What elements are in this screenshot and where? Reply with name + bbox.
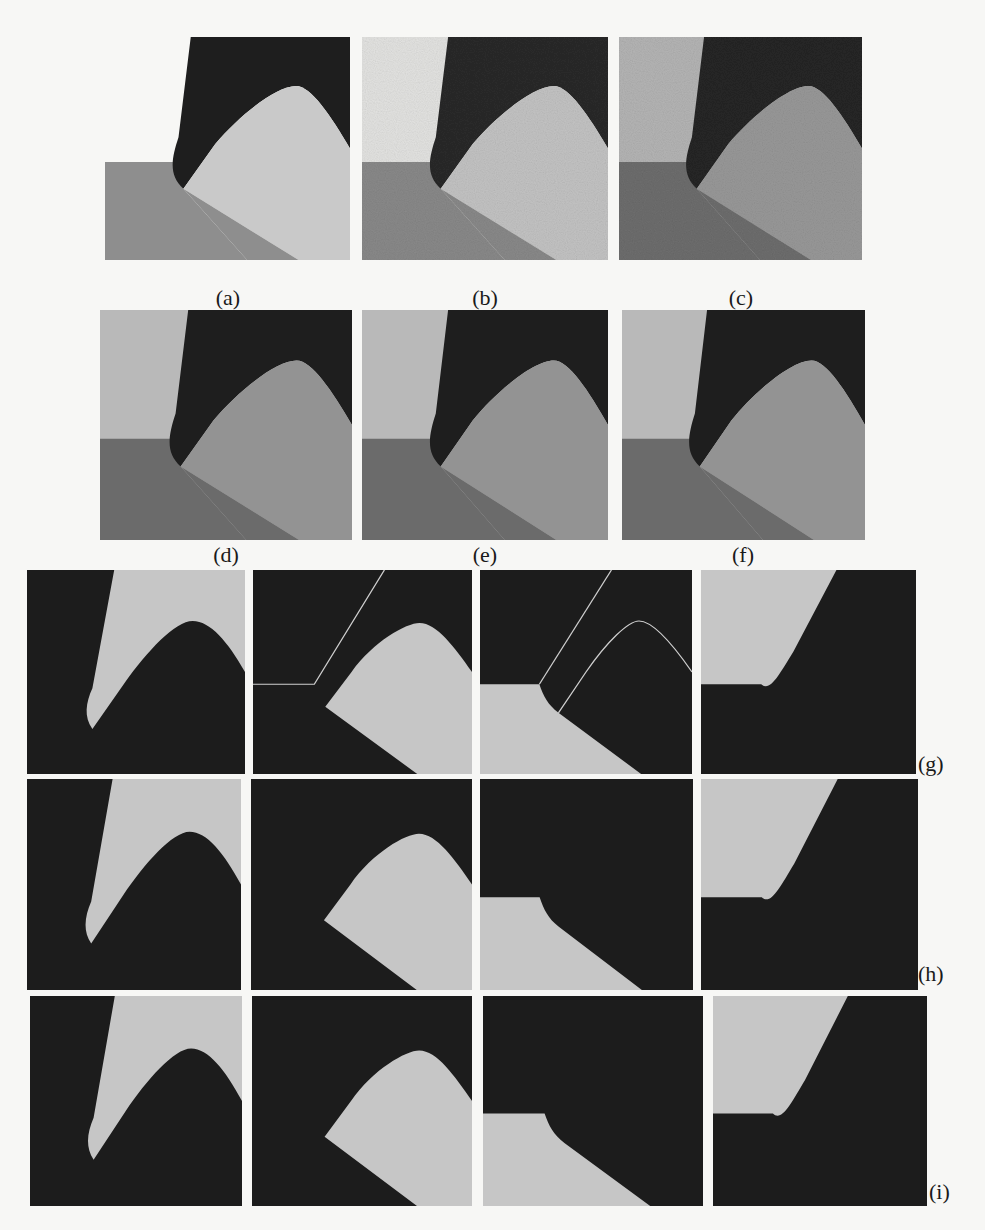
mask-i-2 bbox=[252, 996, 472, 1206]
bleed-through-text bbox=[870, 42, 875, 222]
mask-i-3 bbox=[483, 996, 703, 1206]
caption-b: (b) bbox=[455, 286, 515, 310]
mask-g-1 bbox=[27, 570, 245, 774]
mask-h-2 bbox=[251, 779, 472, 990]
mask-i-1 bbox=[30, 996, 242, 1206]
panel-c bbox=[619, 37, 862, 260]
row-label-g: (g) bbox=[918, 752, 944, 776]
mask-h-3 bbox=[480, 779, 693, 990]
panel-e bbox=[362, 310, 608, 540]
row-label-h: (h) bbox=[918, 962, 944, 986]
mask-g-3 bbox=[480, 570, 692, 774]
panel-a bbox=[105, 37, 350, 260]
mask-g-2 bbox=[253, 570, 472, 774]
panel-d bbox=[100, 310, 352, 540]
caption-f: (f) bbox=[713, 543, 773, 567]
caption-e: (e) bbox=[455, 543, 515, 567]
row-label-i: (i) bbox=[929, 1180, 950, 1204]
panel-b bbox=[362, 37, 608, 260]
mask-g-4 bbox=[701, 570, 916, 774]
mask-h-4 bbox=[701, 779, 918, 990]
caption-d: (d) bbox=[196, 543, 256, 567]
mask-i-4 bbox=[713, 996, 927, 1206]
caption-a: (a) bbox=[198, 286, 258, 310]
panel-f bbox=[622, 310, 865, 540]
mask-h-1 bbox=[27, 779, 241, 990]
caption-c: (c) bbox=[711, 286, 771, 310]
